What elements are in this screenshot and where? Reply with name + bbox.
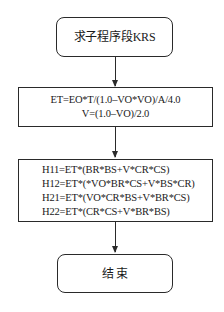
start-label: 求子程序段KRS	[74, 30, 156, 44]
start-node: 求子程序段KRS	[56, 17, 173, 57]
process-box-2: H11=ET*(BR*BS+V*CR*CS) H12=ET*(*VO*BR*CS…	[18, 159, 213, 222]
formula-h11: H11=ET*(BR*BS+V*CR*CS)	[42, 163, 169, 177]
formula-h21: H21=ET*(VO*CR*BS+V*BR*CS)	[42, 191, 189, 205]
arrow-step1-to-step2	[115, 127, 116, 157]
formula-et: ET=EO*T/(1.0–VO*VO)/A/4.0	[51, 93, 181, 107]
formula-h12: H12=ET*(*VO*BR*CS+V*BS*CR)	[42, 177, 195, 191]
process-box-1: ET=EO*T/(1.0–VO*VO)/A/4.0 V=(1.0–VO)/2.0	[18, 87, 213, 127]
arrow-step2-to-end	[115, 222, 116, 252]
end-label: 结 束	[102, 267, 128, 281]
end-node: 结 束	[57, 254, 173, 293]
formula-v: V=(1.0–VO)/2.0	[82, 107, 149, 121]
formula-h22: H22=ET*(CR*CS+V*BR*BS)	[42, 205, 170, 219]
arrow-start-to-step1	[115, 57, 116, 86]
